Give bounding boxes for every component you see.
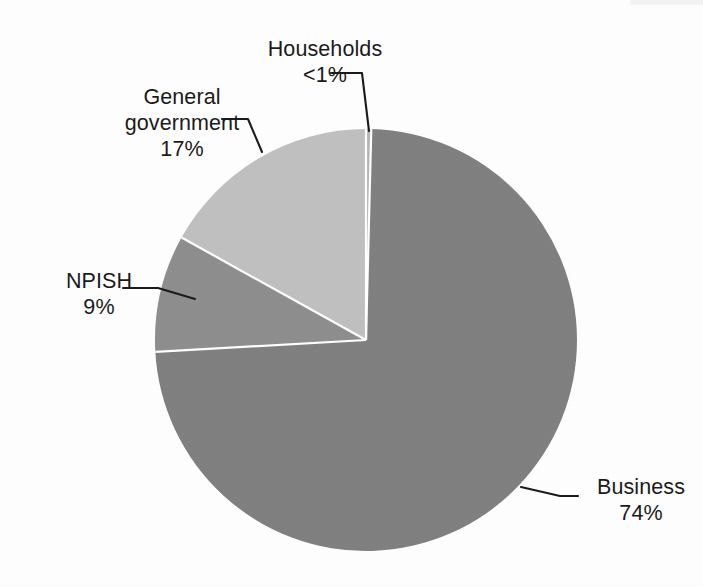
slice-label-business-name: Business xyxy=(585,474,697,500)
pie-chart-figure: Households <1% General government 17% NP… xyxy=(0,0,703,587)
slice-label-business-value: 74% xyxy=(585,500,697,526)
slice-label-npish-name: NPISH xyxy=(44,268,154,294)
slice-label-general-government-name-2: government xyxy=(92,110,272,136)
leader-line-business xyxy=(521,487,578,496)
slice-label-npish-value: 9% xyxy=(44,294,154,320)
slice-label-business: Business 74% xyxy=(585,474,697,526)
slice-label-general-government-value: 17% xyxy=(92,136,272,162)
slice-label-general-government: General government 17% xyxy=(92,84,272,162)
slice-label-households-name: Households xyxy=(240,36,410,62)
slice-label-npish: NPISH 9% xyxy=(44,268,154,320)
slice-label-general-government-name-1: General xyxy=(92,84,272,110)
slice-label-households: Households <1% xyxy=(240,36,410,88)
